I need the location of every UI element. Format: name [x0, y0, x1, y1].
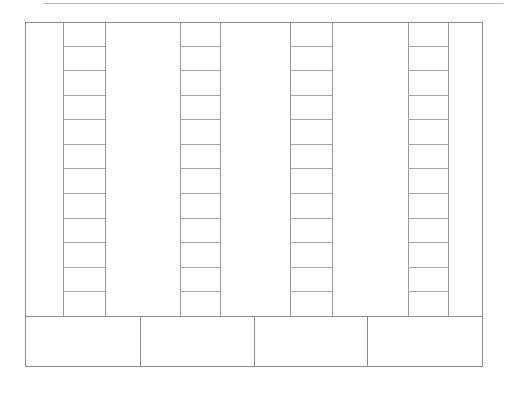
ruled-cell[interactable]	[408, 243, 448, 268]
ruled-cell[interactable]	[180, 243, 220, 268]
ruled-cell[interactable]	[408, 169, 448, 194]
column-plain-3[interactable]	[220, 22, 290, 316]
ruled-cell[interactable]	[290, 71, 332, 96]
column-ruled-1[interactable]	[63, 22, 105, 316]
ruled-cell[interactable]	[63, 219, 105, 244]
ruled-cell[interactable]	[408, 96, 448, 121]
ruled-cell[interactable]	[290, 120, 332, 145]
ruled-cell[interactable]	[408, 71, 448, 96]
column-ruled-4[interactable]	[408, 22, 448, 316]
ruled-cell[interactable]	[408, 120, 448, 145]
ruled-cell[interactable]	[290, 47, 332, 72]
column-plain-2[interactable]	[105, 22, 180, 316]
footer-cell-1[interactable]	[25, 317, 141, 367]
ruled-cell[interactable]	[290, 194, 332, 219]
ruled-cell[interactable]	[290, 292, 332, 316]
ruled-cell[interactable]	[63, 22, 105, 47]
ruled-cell[interactable]	[180, 22, 220, 47]
ruled-cell[interactable]	[180, 71, 220, 96]
ruled-cell[interactable]	[408, 268, 448, 293]
ruled-cell[interactable]	[63, 194, 105, 219]
ruled-cell[interactable]	[63, 145, 105, 170]
ruled-cell[interactable]	[180, 268, 220, 293]
ruled-cell[interactable]	[408, 194, 448, 219]
page-canvas	[0, 0, 506, 393]
ruled-cell[interactable]	[63, 120, 105, 145]
column-ruled-2[interactable]	[180, 22, 220, 316]
ruled-cell[interactable]	[180, 145, 220, 170]
page-top-rule	[44, 3, 503, 4]
footer-cell-3[interactable]	[255, 317, 368, 367]
ruled-cell[interactable]	[408, 145, 448, 170]
ruled-cell[interactable]	[180, 169, 220, 194]
ruled-cell[interactable]	[290, 96, 332, 121]
ruled-cell[interactable]	[63, 71, 105, 96]
column-plain-1[interactable]	[25, 22, 63, 316]
column-ruled-3[interactable]	[290, 22, 332, 316]
ruled-cell[interactable]	[290, 145, 332, 170]
ruled-cell[interactable]	[63, 169, 105, 194]
ruled-cell[interactable]	[63, 268, 105, 293]
ruled-cell[interactable]	[180, 292, 220, 316]
ruled-cell[interactable]	[180, 96, 220, 121]
ruled-cell[interactable]	[63, 96, 105, 121]
ruled-cell[interactable]	[290, 169, 332, 194]
ruled-cell[interactable]	[63, 47, 105, 72]
column-plain-4[interactable]	[332, 22, 408, 316]
ruled-cell[interactable]	[408, 22, 448, 47]
ruled-cell[interactable]	[290, 268, 332, 293]
footer-band	[25, 316, 483, 367]
ruled-cell[interactable]	[180, 219, 220, 244]
ruled-cell[interactable]	[180, 47, 220, 72]
footer-cell-4[interactable]	[368, 317, 483, 367]
ruled-cell[interactable]	[63, 292, 105, 316]
ruled-cell[interactable]	[408, 292, 448, 316]
ruled-cell[interactable]	[180, 194, 220, 219]
ruled-cell[interactable]	[290, 243, 332, 268]
column-plain-5[interactable]	[448, 22, 483, 316]
ruled-cell[interactable]	[408, 219, 448, 244]
ruled-cell[interactable]	[408, 47, 448, 72]
ruled-cell[interactable]	[63, 243, 105, 268]
footer-cell-2[interactable]	[141, 317, 255, 367]
ruled-cell[interactable]	[290, 22, 332, 47]
table-body-region	[25, 22, 483, 316]
ruled-cell[interactable]	[290, 219, 332, 244]
ruled-cell[interactable]	[180, 120, 220, 145]
